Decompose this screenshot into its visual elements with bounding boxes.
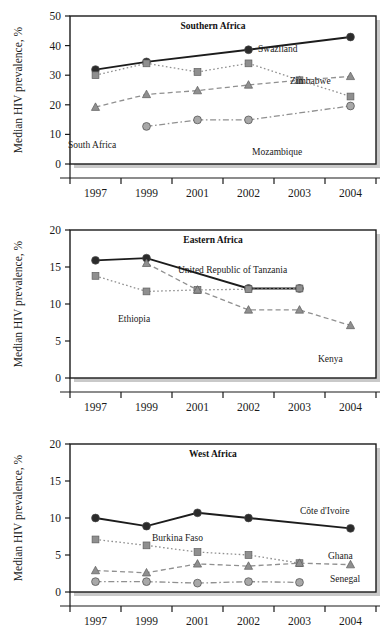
panel-title: West Africa (189, 449, 237, 459)
x-tick-label-2001: 2001 (186, 401, 209, 413)
data-point-marker-burkina-faso-2 (194, 549, 201, 556)
data-point-marker-mozambique-1 (143, 123, 151, 131)
data-point-marker-mozambique-2 (194, 116, 202, 124)
data-point-marker-ethiopia-3 (245, 286, 252, 293)
y-tick-label-2: 20 (50, 99, 62, 111)
y-tick-label-1: 10 (50, 128, 62, 140)
series-annotation-south-africa: South Africa (68, 140, 117, 150)
chart-panel-eastern-africa: 05101520199719992001200220032004Median H… (0, 214, 392, 427)
data-point-marker-mozambique-3 (245, 116, 253, 124)
data-point-marker-senegal-3 (245, 578, 253, 586)
series-annotation-senegal: Senegal (330, 574, 360, 584)
data-point-marker-swaziland-5 (347, 33, 355, 41)
x-tick-label-2003: 2003 (288, 615, 311, 627)
data-point-marker-united-republic-of-tanzania-0 (92, 256, 100, 264)
x-tick-label-1999: 1999 (135, 187, 158, 199)
data-point-marker-senegal-2 (194, 579, 202, 587)
x-tick-label-2001: 2001 (186, 187, 209, 199)
data-point-marker-zimbabwe-1 (143, 60, 150, 67)
x-tick-label-1997: 1997 (84, 401, 107, 413)
x-tick-label-1997: 1997 (84, 615, 107, 627)
data-point-marker-zimbabwe-0 (92, 72, 99, 79)
y-axis-title: Median HIV prevalence, % (12, 26, 25, 153)
data-point-marker-ethiopia-0 (92, 272, 99, 279)
series-annotation-c-te-d-ivoire: Côte d'Ivoire (300, 506, 349, 516)
data-point-marker-c-te-d-ivoire-2 (194, 509, 202, 517)
data-point-marker-ethiopia-4 (296, 285, 303, 292)
data-point-marker-burkina-faso-0 (92, 536, 99, 543)
plot-background (70, 444, 376, 592)
chart-panel-west-africa: 05101520199719992001200220032004Median H… (0, 428, 392, 641)
data-point-marker-senegal-0 (92, 578, 100, 586)
chart-svg-0: 01020304050199719992001200220032004Media… (0, 0, 392, 213)
data-point-marker-senegal-1 (143, 578, 151, 586)
y-tick-label-2: 10 (50, 512, 62, 524)
y-tick-label-5: 50 (50, 10, 62, 22)
data-point-marker-c-te-d-ivoire-5 (347, 524, 355, 532)
y-axis-title: Median HIV prevalence, % (12, 240, 25, 367)
y-tick-label-4: 20 (50, 438, 62, 450)
x-tick-label-2004: 2004 (339, 401, 362, 413)
x-tick-label-2003: 2003 (288, 401, 311, 413)
data-point-marker-zimbabwe-2 (194, 69, 201, 76)
x-tick-label-2002: 2002 (237, 187, 260, 199)
chart-svg-1: 05101520199719992001200220032004Median H… (0, 214, 392, 427)
y-axis-title: Median HIV prevalence, % (12, 454, 25, 581)
series-annotation-kenya: Kenya (318, 354, 344, 364)
chart-svg-2: 05101520199719992001200220032004Median H… (0, 428, 392, 641)
x-tick-label-2003: 2003 (288, 187, 311, 199)
y-tick-label-4: 40 (50, 40, 62, 52)
y-tick-label-1: 5 (55, 335, 61, 347)
series-annotation-swaziland: Swaziland (258, 44, 298, 54)
y-tick-label-3: 15 (50, 475, 62, 487)
panel-title: Southern Africa (180, 21, 245, 31)
data-point-marker-c-te-d-ivoire-1 (143, 522, 151, 530)
data-point-marker-ethiopia-1 (143, 288, 150, 295)
series-annotation-mozambique: Mozambique (252, 147, 302, 157)
x-tick-label-2002: 2002 (237, 401, 260, 413)
data-point-marker-mozambique-5 (347, 102, 355, 110)
data-point-marker-c-te-d-ivoire-0 (92, 514, 100, 522)
series-annotation-united-republic-of-tanzania: United Republic of Tanzania (178, 265, 288, 275)
data-point-marker-senegal-4 (296, 578, 304, 586)
data-point-marker-burkina-faso-1 (143, 542, 150, 549)
x-tick-label-1999: 1999 (135, 401, 158, 413)
x-tick-label-2001: 2001 (186, 615, 209, 627)
data-point-marker-zimbabwe-3 (245, 60, 252, 67)
series-annotation-ethiopia: Ethiopia (118, 314, 151, 324)
series-annotation-zimbabwe: Zimbabwe (290, 76, 331, 86)
y-tick-label-0: 0 (55, 158, 61, 170)
x-tick-label-1997: 1997 (84, 187, 107, 199)
series-annotation-ghana: Ghana (328, 551, 354, 561)
y-tick-label-3: 15 (50, 261, 62, 273)
x-tick-label-2004: 2004 (339, 187, 362, 199)
data-point-marker-c-te-d-ivoire-3 (245, 514, 253, 522)
y-tick-label-4: 20 (50, 224, 62, 236)
y-tick-label-2: 10 (50, 298, 62, 310)
panel-title: Eastern Africa (183, 235, 243, 245)
y-tick-label-1: 5 (55, 549, 61, 561)
x-tick-label-2004: 2004 (339, 615, 362, 627)
y-tick-label-3: 30 (50, 69, 62, 81)
series-annotation-burkina-faso: Burkina Faso (152, 533, 203, 543)
data-point-marker-zimbabwe-5 (347, 93, 354, 100)
data-point-marker-burkina-faso-3 (245, 552, 252, 559)
y-tick-label-0: 0 (55, 586, 61, 598)
x-tick-label-2002: 2002 (237, 615, 260, 627)
figure-page: 01020304050199719992001200220032004Media… (0, 0, 392, 641)
x-tick-label-1999: 1999 (135, 615, 158, 627)
data-point-marker-swaziland-3 (245, 46, 253, 54)
chart-panel-southern-africa: 01020304050199719992001200220032004Media… (0, 0, 392, 213)
y-tick-label-0: 0 (55, 372, 61, 384)
